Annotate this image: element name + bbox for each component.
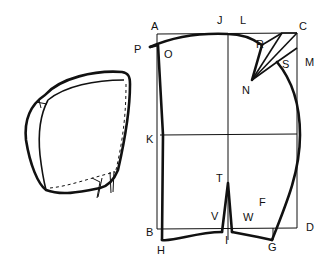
pattern-diagram: A J L C P O R S M N K T F V W B I D H G [0, 0, 330, 268]
label-S: S [282, 58, 289, 70]
label-D: D [306, 221, 314, 233]
label-L: L [240, 14, 246, 26]
label-V: V [211, 210, 219, 222]
label-J: J [217, 14, 223, 26]
label-T: T [216, 172, 223, 184]
label-F: F [259, 196, 266, 208]
label-W: W [243, 211, 254, 223]
label-R: R [256, 38, 264, 50]
label-M: M [305, 56, 314, 68]
pattern-outline [150, 33, 300, 240]
hood-sketch [26, 72, 130, 198]
label-O: O [164, 48, 173, 60]
draft-rectangle [157, 33, 297, 240]
label-H: H [157, 244, 165, 256]
label-G: G [268, 241, 277, 253]
label-P: P [134, 43, 141, 55]
label-C: C [299, 20, 307, 32]
label-K: K [146, 133, 154, 145]
label-B: B [146, 226, 153, 238]
label-N: N [242, 84, 250, 96]
label-I: I [225, 234, 228, 246]
label-A: A [151, 20, 159, 32]
